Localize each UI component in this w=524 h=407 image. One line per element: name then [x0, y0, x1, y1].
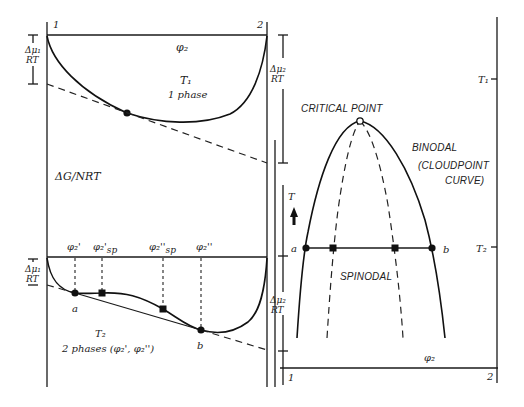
point-a-label: a	[72, 303, 78, 314]
spinodal-curve-left	[327, 121, 360, 338]
delta-mu2-bottom: RT	[270, 74, 285, 84]
composition-1-label: 1	[53, 19, 59, 30]
free-energy-curve-t1	[47, 36, 267, 122]
spinodal-point-right	[392, 245, 399, 252]
upper-diagram-t1: φ₂ T₁ 1 phase Δμ₁ RT	[24, 35, 288, 163]
t2-label-lower: T₂	[95, 328, 106, 339]
delta-mu1-bracket-upper: Δμ₁ RT	[24, 35, 41, 84]
marker-phi2-prime: φ₂'	[67, 241, 81, 252]
composition-1-label-right: 1	[288, 372, 294, 383]
delta-mu1-top: Δμ₁	[24, 45, 41, 55]
tangent-line-t1	[47, 84, 267, 163]
delta-mu2-top: Δμ₂	[269, 64, 286, 74]
critical-point-marker	[357, 118, 363, 124]
spinodal-point-2	[160, 306, 167, 313]
delta-mu2-lower-top: Δμ₂	[269, 295, 286, 305]
two-phases-label: 2 phases (φ₂', φ₂'')	[61, 343, 154, 354]
left-panel-free-energy: 1 2 φ₂ T₁ 1 phase Δμ₁ RT	[24, 19, 288, 387]
phi2-label-right: φ₂	[424, 352, 435, 363]
delta-mu1-lower-top: Δμ₁	[24, 264, 41, 274]
marker-phi2-dprime-sp: φ₂''sp	[149, 241, 176, 255]
point-b-label-right: b	[443, 244, 449, 255]
arrow-up-icon	[290, 207, 298, 225]
delta-mu1-bracket-lower: Δμ₁ RT	[24, 259, 41, 285]
phase-diagram-figure: 1 2 φ₂ T₁ 1 phase Δμ₁ RT	[0, 0, 524, 407]
marker-phi2-dprime: φ₂''	[196, 241, 213, 252]
marker-phi2-prime-sp: φ₂'sp	[93, 241, 117, 255]
common-tangent-line	[75, 293, 201, 330]
t1-label-upper: T₁	[180, 74, 192, 87]
binodal-point-b	[197, 326, 204, 333]
one-phase-label: 1 phase	[168, 89, 207, 100]
free-energy-curve-t2	[47, 258, 267, 332]
composition-markers: φ₂' φ₂'sp φ₂''sp φ₂''	[67, 241, 213, 255]
spinodal-point-left	[330, 245, 337, 252]
spinodal-label: SPINODAL	[340, 271, 392, 282]
delta-mu1-bottom: RT	[25, 55, 40, 65]
delta-mu1-lower-bottom: RT	[25, 274, 40, 284]
composition-2-label-right: 2	[486, 371, 493, 382]
lower-diagram-t2: φ₂' φ₂'sp φ₂''sp φ₂'' a b T₂ 2 phas	[24, 241, 288, 354]
spinodal-point-1	[99, 290, 106, 297]
right-panel-phase-diagram: T 1 2 φ₂ T₁ T₂ CRITICAL POINT BINODAL (C…	[280, 17, 498, 385]
binodal-label: BINODAL	[412, 142, 457, 153]
cloudpoint-label-line1: (CLOUDPOINT	[418, 160, 490, 171]
point-a-label-right: a	[291, 243, 297, 254]
delta-mu2-bracket-upper: Δμ₂ RT	[269, 35, 288, 163]
delta-mu2-bracket-lower: Δμ₂ RT	[269, 256, 288, 351]
critical-point-label: CRITICAL POINT	[301, 103, 383, 114]
composition-2-label: 2	[256, 19, 263, 30]
cloudpoint-label-line2: CURVE)	[445, 175, 484, 186]
binodal-curve	[297, 121, 445, 338]
binodal-point-a-right	[302, 244, 309, 251]
t-axis-label: T	[288, 191, 296, 202]
delta-mu2-lower-bottom: RT	[270, 305, 285, 315]
point-b-label: b	[197, 340, 203, 351]
t2-tick-label: T₂	[476, 243, 487, 254]
delta-g-axis-label: ΔG/NRT	[54, 170, 102, 183]
phi2-label-upper: φ₂	[176, 41, 188, 54]
binodal-point-a	[71, 289, 78, 296]
t1-tick-label: T₁	[478, 74, 489, 85]
binodal-point-b-right	[428, 244, 435, 251]
